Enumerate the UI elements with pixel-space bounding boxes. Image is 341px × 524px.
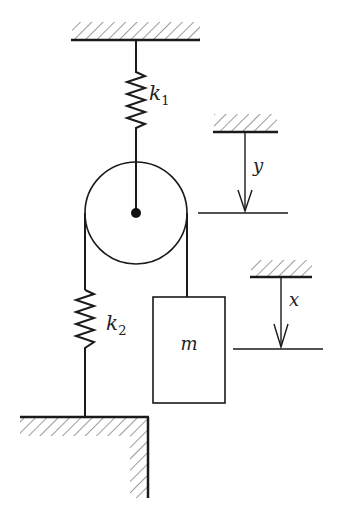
x-reference xyxy=(233,260,323,349)
label-x: x xyxy=(289,289,299,310)
y-reference xyxy=(198,114,288,213)
label-m: m xyxy=(180,333,197,354)
ground-support xyxy=(20,417,149,498)
label-y: y xyxy=(252,155,264,176)
spring-k2 xyxy=(76,290,94,417)
pulley-spring-mass-diagram: k1 k2 m y x xyxy=(0,0,341,524)
spring-k1 xyxy=(127,40,145,213)
pulley-axle xyxy=(131,208,141,218)
label-k2: k2 xyxy=(106,311,126,338)
ceiling-support xyxy=(71,22,200,40)
label-k1: k1 xyxy=(149,81,169,108)
